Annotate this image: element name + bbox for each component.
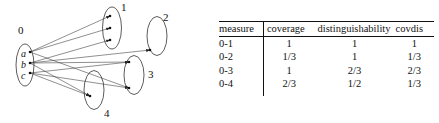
table-row: 0-1111: [219, 36, 434, 50]
table-body: 0-11110-21/311/30-312/32/30-42/31/21/3: [219, 36, 434, 96]
point-p2-1: [149, 49, 152, 52]
cell-measure: 0-3: [219, 64, 263, 78]
cell-coverage: 1/3: [263, 50, 314, 64]
point-p3-1: [128, 61, 131, 64]
cell-distinguishability: 1: [315, 50, 395, 64]
point-p0-b: [29, 62, 32, 65]
element-label-a: a: [21, 49, 26, 59]
cell-measure: 0-2: [219, 50, 263, 64]
ellipse-set-4: [84, 71, 104, 110]
column-header-distinguishability: distinguishability: [315, 22, 395, 37]
edge-p0-c-to-p3-2: [30, 73, 129, 88]
element-label-b: b: [21, 60, 26, 70]
set-ellipses: [16, 7, 167, 110]
cell-coverage: 1: [263, 36, 314, 50]
edge-p0-b-to-p1-3: [30, 40, 110, 63]
spacer-cell: [219, 91, 263, 96]
cell-covdis: 2/3: [395, 64, 434, 78]
edge-p0-a-to-p1-1: [30, 16, 110, 52]
table-row: 0-21/311/3: [219, 50, 434, 64]
set-mapping-diagram: 0 1 2 3 4 a b c: [0, 0, 215, 123]
point-p1-3: [109, 39, 112, 42]
spacer-cell: [263, 91, 314, 96]
point-p3-2: [128, 87, 131, 90]
cell-measure: 0-1: [219, 36, 263, 50]
table-header: measure coverage distinguishability covd…: [219, 22, 434, 37]
table-row: 0-42/31/21/3: [219, 77, 434, 91]
cell-covdis: 1: [395, 36, 434, 50]
column-header-covdis: covdis: [395, 22, 434, 37]
set-label-0: 0: [18, 25, 24, 36]
set-label-4: 4: [104, 108, 110, 119]
edge-p0-b-to-p3-1: [30, 62, 129, 63]
ellipse-set-3: [124, 56, 144, 95]
diagram-canvas: [0, 0, 215, 123]
point-p1-1: [109, 15, 112, 18]
table-header-row: measure coverage distinguishability covd…: [219, 22, 434, 37]
cell-coverage: 1: [263, 64, 314, 78]
measures-table-panel: measure coverage distinguishability covd…: [219, 21, 437, 106]
spacer-cell: [315, 91, 395, 96]
cell-covdis: 1/3: [395, 50, 434, 64]
point-p4-1: [89, 95, 92, 98]
spacer-cell: [395, 91, 434, 96]
column-header-coverage: coverage: [263, 22, 314, 37]
ellipse-set-1: [103, 7, 122, 49]
edge-p0-b-to-p4-1: [30, 63, 90, 96]
set-label-1: 1: [121, 2, 127, 13]
figure-screenshot: 0 1 2 3 4 a b c measure coverage disting…: [0, 0, 439, 123]
point-p0-c: [29, 72, 32, 75]
edge-p0-c-to-p4-1: [30, 73, 90, 96]
point-p0-a: [29, 51, 32, 54]
element-label-c: c: [21, 71, 25, 81]
edge-p0-a-to-p1-2: [30, 28, 110, 52]
set-label-2: 2: [163, 12, 169, 23]
point-p1-2: [109, 27, 112, 30]
cell-measure: 0-4: [219, 77, 263, 91]
cell-distinguishability: 2/3: [315, 64, 395, 78]
table-row: 0-312/32/3: [219, 64, 434, 78]
column-header-measure: measure: [219, 22, 263, 37]
table-rule-extension: [219, 91, 434, 96]
cell-distinguishability: 1: [315, 36, 395, 50]
edge-p0-b-to-p2-1: [30, 50, 150, 63]
measures-table: measure coverage distinguishability covd…: [219, 21, 434, 96]
set-label-3: 3: [148, 69, 154, 80]
